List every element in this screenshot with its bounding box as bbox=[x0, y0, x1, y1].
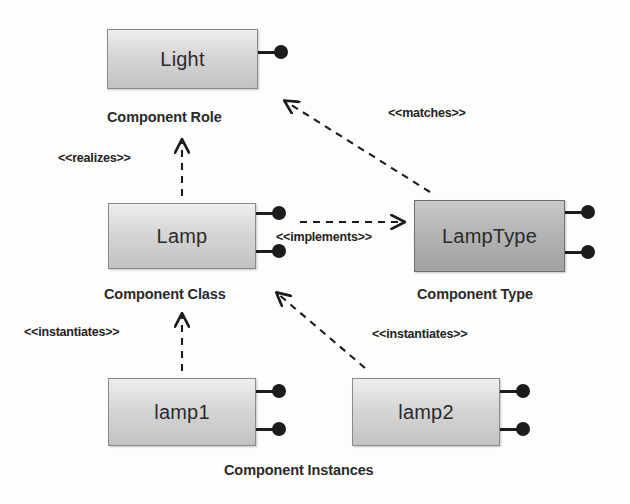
caption-component-class: Component Class bbox=[104, 286, 226, 302]
stereotype-label-implements: <<implements>> bbox=[276, 230, 372, 244]
port-stem-icon bbox=[565, 211, 582, 214]
component-box-lamptype-label: LampType bbox=[442, 225, 537, 248]
stereotype-label-matches: <<matches>> bbox=[388, 106, 466, 120]
port-stem-icon bbox=[500, 428, 517, 431]
component-box-light[interactable]: Light bbox=[107, 29, 258, 89]
port-stem-icon bbox=[256, 390, 273, 393]
port-ball-icon bbox=[272, 384, 286, 398]
component-box-lamp2-label: lamp2 bbox=[398, 401, 453, 424]
port-stem-icon bbox=[258, 51, 275, 54]
port-ball-icon bbox=[581, 245, 595, 259]
component-box-lamp1[interactable]: lamp1 bbox=[108, 378, 256, 446]
provided-interface-port-lamp2-1 bbox=[500, 384, 530, 398]
port-stem-icon bbox=[565, 251, 582, 254]
port-ball-icon bbox=[516, 422, 530, 436]
port-ball-icon bbox=[581, 205, 595, 219]
port-ball-icon bbox=[516, 384, 530, 398]
provided-interface-port-lamp1-2 bbox=[256, 422, 286, 436]
caption-component-role: Component Role bbox=[107, 109, 222, 125]
port-ball-icon bbox=[272, 244, 286, 258]
component-box-lamp-label: Lamp bbox=[157, 225, 208, 248]
stereotype-label-realizes: <<realizes>> bbox=[58, 151, 131, 165]
provided-interface-port-lamp2-2 bbox=[500, 422, 530, 436]
stereotype-label-instantiates-lamp2: <<instantiates>> bbox=[372, 327, 467, 341]
component-box-lamp2[interactable]: lamp2 bbox=[352, 378, 500, 446]
port-stem-icon bbox=[256, 212, 273, 215]
port-stem-icon bbox=[256, 428, 273, 431]
component-diagram: Light Component Role Lamp Component Clas… bbox=[0, 0, 630, 504]
stereotype-label-instantiates-lamp1: <<instantiates>> bbox=[24, 325, 119, 339]
component-box-lamp[interactable]: Lamp bbox=[108, 203, 256, 269]
port-ball-icon bbox=[272, 422, 286, 436]
provided-interface-port-lamptype-1 bbox=[565, 205, 595, 219]
provided-interface-port-lamp-1 bbox=[256, 206, 286, 220]
component-box-lamp1-label: lamp1 bbox=[154, 401, 209, 424]
caption-component-type: Component Type bbox=[417, 286, 533, 302]
provided-interface-port-lamp-2 bbox=[256, 244, 286, 258]
component-box-lamptype[interactable]: LampType bbox=[414, 200, 565, 272]
port-ball-icon bbox=[272, 206, 286, 220]
caption-component-instances: Component Instances bbox=[224, 462, 374, 478]
provided-interface-port-lamptype-2 bbox=[565, 245, 595, 259]
component-box-light-label: Light bbox=[160, 48, 204, 71]
provided-interface-port-lamp1-1 bbox=[256, 384, 286, 398]
edge-instantiates-lamp2 bbox=[277, 293, 365, 368]
provided-interface-port-light-1 bbox=[258, 45, 288, 59]
port-stem-icon bbox=[500, 390, 517, 393]
port-stem-icon bbox=[256, 250, 273, 253]
port-ball-icon bbox=[274, 45, 288, 59]
